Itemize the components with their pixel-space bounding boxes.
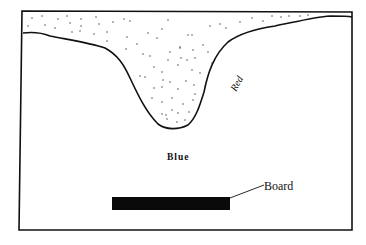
label-blue: Blue xyxy=(167,152,189,162)
label-red: Red xyxy=(228,73,246,94)
label-board: Board xyxy=(264,179,293,193)
board-bar xyxy=(112,197,230,210)
interface-curve xyxy=(23,16,352,129)
diagram-canvas: Red Blue Board xyxy=(0,0,366,245)
board-leader-line xyxy=(230,185,264,198)
stipple-dots xyxy=(27,14,308,122)
